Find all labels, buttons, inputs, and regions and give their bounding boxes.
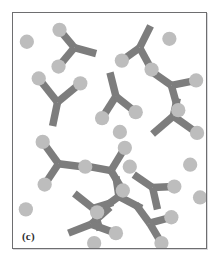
antibody-8-stem [89,167,111,171]
antigen-1 [52,23,66,37]
antigen-15 [118,141,132,155]
antibody-12-arm-b [153,188,158,210]
antigen-7 [95,111,109,125]
antigen-8 [129,105,143,119]
figure-panel-c: (c) [0,0,219,266]
antigen-10 [171,103,185,117]
antigen-26 [19,202,33,216]
antigen-14 [78,160,92,174]
figure-frame-border: (c) [12,12,207,249]
antibody-12-stem [134,175,153,188]
antibody-13-stem [136,204,150,223]
antigen-5 [32,71,46,85]
antibody-7 [43,142,83,185]
antibody-antigen-diagram [13,13,206,248]
antigen-13 [38,177,52,191]
antibody-13 [136,204,172,243]
antigen-20 [164,210,178,224]
antibody-4-stem [110,72,116,96]
antigen-28 [123,160,137,174]
antibody-3-stem [53,102,58,126]
antigen-2 [51,59,65,73]
antigen-17 [90,205,104,219]
antigen-16 [116,183,130,197]
antigen-6 [73,76,87,90]
antibody-2-stem [140,26,151,48]
antibody-1 [59,30,97,67]
antigen-22 [20,35,34,49]
antibody-1-stem [74,48,96,54]
antigen-4 [144,62,158,76]
antibody-10-stem [74,193,93,208]
antigen-3 [115,53,129,67]
antigen-9 [189,73,203,87]
panel-label: (c) [22,231,35,242]
antigen-29 [193,190,206,204]
antigen-19 [167,179,181,193]
antigen-11 [190,126,204,140]
antigen-23 [162,32,176,46]
antigen-18 [109,226,123,240]
antibody-11-stem [68,224,91,233]
antigen-24 [113,125,127,139]
antigen-27 [87,236,101,248]
antigen-layer [19,23,206,248]
antigen-25 [183,158,197,172]
antibody-6-arm-a [153,116,174,134]
antigen-12 [36,135,50,149]
